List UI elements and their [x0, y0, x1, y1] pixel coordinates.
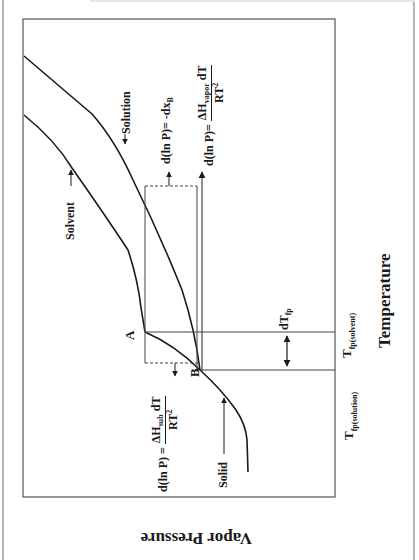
dtfp-label: dTfp: [278, 308, 293, 330]
tfp-solution-label: Tfp(solution): [342, 392, 359, 440]
point-a-label: A: [123, 331, 136, 340]
equation-sublimation: d(ln P) = ΔHsub dT RT2: [150, 396, 179, 492]
equation-dxb: d(ln P)= -dxB: [160, 97, 175, 164]
solvent-label: Solvent: [64, 202, 76, 240]
tfp-solvent-label: Tfp(solvent): [340, 313, 357, 358]
y-axis-title: Vapor Pressure: [141, 530, 252, 547]
solvent-curve: [24, 115, 145, 332]
solution-label: Solution: [120, 91, 132, 134]
solid-label: Solid: [217, 462, 229, 488]
x-axis-title: Temperature: [376, 254, 393, 348]
point-b-label: B: [188, 368, 201, 377]
equation-vapor: d(ln P)= ΔHvapor dT RT2: [196, 65, 225, 166]
